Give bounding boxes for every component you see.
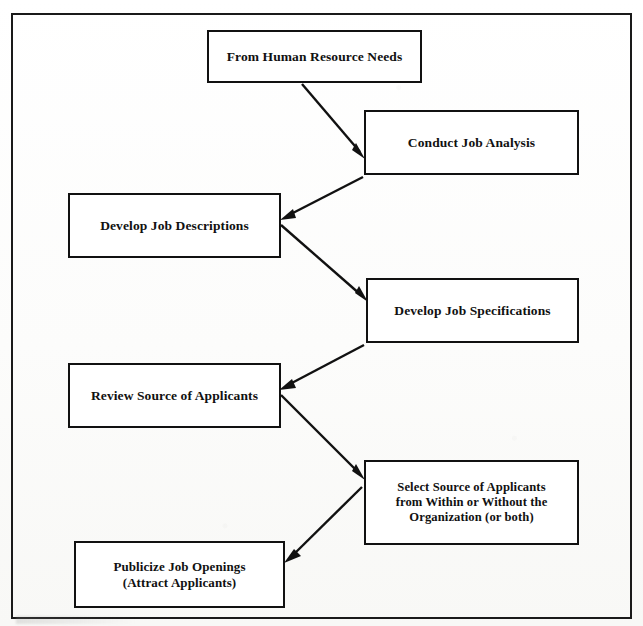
- flowchart-page: From Human Resource Needs Conduct Job An…: [0, 0, 643, 626]
- node-label: From Human Resource Needs: [227, 49, 403, 65]
- node-select-source-applicants: Select Source of Applicants from Within …: [364, 460, 579, 545]
- node-label: Conduct Job Analysis: [408, 135, 535, 151]
- node-label: Publicize Job Openings (Attract Applican…: [113, 559, 245, 590]
- node-review-source-applicants: Review Source of Applicants: [68, 363, 281, 428]
- node-label: Develop Job Specifications: [394, 303, 550, 319]
- node-conduct-job-analysis: Conduct Job Analysis: [364, 110, 579, 175]
- node-develop-job-specifications: Develop Job Specifications: [366, 278, 579, 343]
- node-publicize-job-openings: Publicize Job Openings (Attract Applican…: [74, 541, 285, 608]
- node-label: Review Source of Applicants: [91, 388, 258, 404]
- node-label: Develop Job Descriptions: [100, 218, 249, 234]
- node-develop-job-descriptions: Develop Job Descriptions: [68, 193, 281, 258]
- node-label: Select Source of Applicants from Within …: [396, 480, 548, 525]
- node-from-human-resource-needs: From Human Resource Needs: [207, 30, 422, 83]
